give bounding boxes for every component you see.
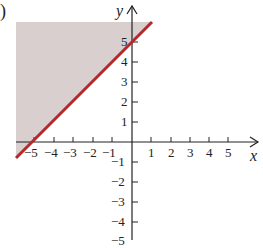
y-tick-label: −3 — [111, 195, 125, 208]
y-tick-label: −2 — [111, 175, 125, 188]
y-tick-label: −4 — [111, 215, 125, 228]
x-tick-label: 2 — [168, 146, 175, 159]
x-tick-label: −5 — [24, 146, 38, 159]
y-tick-label: −1 — [111, 155, 125, 168]
y-tick-label: 4 — [121, 55, 128, 68]
x-axis-label: x — [250, 148, 257, 164]
y-tick-label: −5 — [111, 234, 125, 247]
x-tick-label: 1 — [148, 146, 155, 159]
x-tick-label: 3 — [187, 146, 194, 159]
y-tick-label: 2 — [121, 95, 128, 108]
x-tick-label: 5 — [225, 146, 232, 159]
y-tick-label: 5 — [121, 35, 128, 48]
part-marker: ) — [0, 2, 6, 20]
x-tick-label: −3 — [63, 146, 77, 159]
x-tick-label: 4 — [206, 146, 213, 159]
x-tick-label: −4 — [44, 146, 58, 159]
y-ticks — [132, 42, 138, 222]
y-axis-label: y — [116, 3, 123, 19]
y-tick-label: 3 — [121, 75, 128, 88]
x-ticks — [34, 137, 228, 142]
x-tick-label: −2 — [83, 146, 97, 159]
y-tick-label: 1 — [121, 115, 128, 128]
